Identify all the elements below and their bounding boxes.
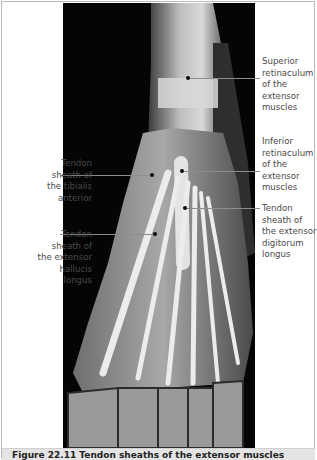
- label-line: digitorum: [262, 238, 316, 250]
- leader-line-superior-retinaculum: [190, 78, 260, 79]
- label-line: Superior: [262, 56, 313, 68]
- label-extensor-digitorum-longus: Tendon sheath of the extensor digitorum …: [262, 203, 316, 261]
- label-line: anterior: [47, 193, 92, 205]
- label-line: Tendon: [47, 158, 92, 170]
- label-extensor-hallucis-longus: Tendon sheath of the extensor hallucis l…: [38, 229, 92, 287]
- marker-dot-extensor-digitorum: [183, 206, 187, 210]
- label-line: Tendon: [38, 229, 92, 241]
- label-tibialis-anterior: Tendon sheath of the tibialis anterior: [47, 158, 92, 204]
- marker-dot-extensor-hallucis: [153, 232, 157, 236]
- marker-dot-superior-retinaculum: [186, 76, 190, 80]
- label-inferior-retinaculum: Inferior retinaculum of the extensor mus…: [262, 136, 313, 194]
- leader-line-inferior-retinaculum: [183, 171, 260, 172]
- label-line: the extensor: [262, 226, 316, 238]
- label-line: the tibialis: [47, 181, 92, 193]
- marker-dot-tibialis-anterior: [150, 173, 154, 177]
- label-line: the extensor: [38, 252, 92, 264]
- label-line: extensor: [262, 91, 313, 103]
- label-line: sheath of: [262, 215, 316, 227]
- foot-dissection-image: [63, 3, 255, 448]
- label-superior-retinaculum: Superior retinaculum of the extensor mus…: [262, 56, 313, 114]
- label-line: hallucis: [38, 264, 92, 276]
- label-line: of the: [262, 159, 313, 171]
- label-line: longus: [38, 275, 92, 287]
- label-line: sheath of: [47, 170, 92, 182]
- marker-dot-inferior-retinaculum: [180, 169, 184, 173]
- label-line: of the: [262, 79, 313, 91]
- anatomy-photo: [63, 3, 255, 448]
- label-line: muscles: [262, 182, 313, 194]
- label-line: Tendon: [262, 203, 316, 215]
- label-line: retinaculum: [262, 68, 313, 80]
- label-line: retinaculum: [262, 148, 313, 160]
- label-line: sheath of: [38, 241, 92, 253]
- label-line: muscles: [262, 102, 313, 114]
- leader-line-extensor-digitorum: [186, 208, 260, 209]
- label-line: extensor: [262, 171, 313, 183]
- label-line: Inferior: [262, 136, 313, 148]
- label-line: longus: [262, 249, 316, 261]
- figure-caption: Figure 22.11 Tendon sheaths of the exten…: [2, 448, 315, 460]
